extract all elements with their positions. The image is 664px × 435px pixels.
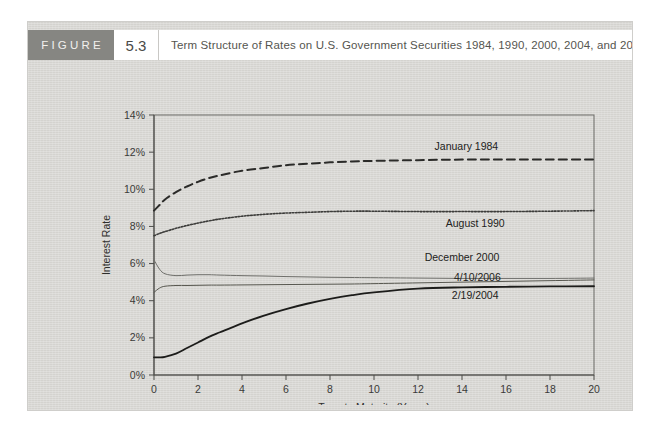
x-tick-label: 4 bbox=[239, 383, 245, 395]
x-tick-label: 18 bbox=[544, 383, 556, 395]
y-axis-title: Interest Rate bbox=[100, 215, 112, 275]
y-tick-label: 10% bbox=[124, 183, 145, 195]
x-tick-label: 10 bbox=[368, 383, 380, 395]
y-tick-label: 14% bbox=[124, 109, 145, 121]
y-tick-label: 2% bbox=[130, 331, 145, 343]
y-tick-label: 8% bbox=[130, 220, 145, 232]
y-tick-label: 6% bbox=[130, 257, 145, 269]
series-label-4: 2/19/2004 bbox=[452, 289, 499, 301]
series-label-0: January 1984 bbox=[435, 140, 499, 152]
figure-panel: FIGURE 5.3 Term Structure of Rates on U.… bbox=[28, 22, 632, 410]
series-label-1: August 1990 bbox=[446, 217, 505, 229]
y-tick-label: 4% bbox=[130, 294, 145, 306]
series-line-4 bbox=[154, 286, 594, 357]
figure-header: FIGURE 5.3 Term Structure of Rates on U.… bbox=[28, 30, 632, 60]
series-line-2 bbox=[154, 260, 594, 279]
term-structure-chart: 0%2%4%6%8%10%12%14%02468101214161820Term… bbox=[28, 70, 632, 405]
figure-label: FIGURE bbox=[28, 30, 114, 60]
chart-area: 0%2%4%6%8%10%12%14%02468101214161820Term… bbox=[28, 70, 632, 405]
series-line-1 bbox=[154, 211, 594, 236]
series-label-2: December 2000 bbox=[425, 251, 500, 263]
figure-title: Term Structure of Rates on U.S. Governme… bbox=[159, 30, 632, 60]
x-axis-title: Term to Maturity (Years) bbox=[318, 401, 430, 405]
x-tick-label: 14 bbox=[456, 383, 468, 395]
x-tick-label: 20 bbox=[588, 383, 600, 395]
x-tick-label: 2 bbox=[195, 383, 201, 395]
x-tick-label: 16 bbox=[500, 383, 512, 395]
x-tick-label: 12 bbox=[412, 383, 424, 395]
y-tick-label: 0% bbox=[130, 369, 145, 381]
plot-frame bbox=[154, 115, 594, 375]
x-tick-label: 0 bbox=[151, 383, 157, 395]
x-tick-label: 6 bbox=[283, 383, 289, 395]
figure-number: 5.3 bbox=[114, 30, 159, 60]
y-tick-label: 12% bbox=[124, 146, 145, 158]
series-line-0 bbox=[154, 160, 594, 211]
x-tick-label: 8 bbox=[327, 383, 333, 395]
series-label-3: 4/10/2006 bbox=[454, 271, 501, 283]
